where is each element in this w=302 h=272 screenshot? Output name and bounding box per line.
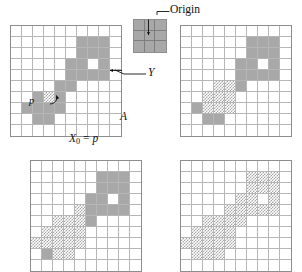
grid-cell-empty: [269, 238, 280, 249]
grid-cell-empty: [236, 172, 247, 183]
grid-row: [11, 92, 121, 103]
grid-row: [181, 114, 291, 125]
grid-cell-empty: [236, 103, 247, 114]
grid-cell-empty: [77, 103, 88, 114]
grid-cell-empty: [97, 238, 108, 249]
grid-cell-hatch: [247, 194, 258, 205]
grid-cell-empty: [64, 205, 75, 216]
grid-row: [181, 161, 291, 172]
grid-cell-hatch: [225, 103, 236, 114]
grid-cell-empty: [269, 161, 280, 172]
grid-cell-empty: [181, 92, 192, 103]
grid-cell-empty: [11, 103, 22, 114]
grid-cell-empty: [280, 26, 291, 37]
grid-cell-empty: [236, 114, 247, 125]
grid-cell-empty: [44, 26, 55, 37]
grid-cell-empty: [86, 183, 97, 194]
grid-cell-hatch: [203, 227, 214, 238]
grid-cell-hatch: [214, 103, 225, 114]
grid-cell-solid: [236, 81, 247, 92]
grid-row: [181, 26, 291, 37]
grid-cell-empty: [11, 125, 22, 136]
grid-cell-solid: [44, 114, 55, 125]
grid-cell-empty: [130, 194, 141, 205]
grid-cell-hatch: [269, 172, 280, 183]
grid-cell-empty: [55, 125, 66, 136]
grid-cell-empty: [181, 161, 192, 172]
grid-cell-empty: [280, 48, 291, 59]
grid-cell-empty: [11, 92, 22, 103]
grid-cell-empty: [66, 92, 77, 103]
grid-cell-solid: [77, 59, 88, 70]
grid-cell-empty: [247, 114, 258, 125]
grid-cell-empty: [108, 216, 119, 227]
grid-cell-empty: [280, 172, 291, 183]
grid-cell-solid: [269, 70, 280, 81]
grid-cell-empty: [75, 194, 86, 205]
grid-cell-solid: [269, 48, 280, 59]
grid-cell-empty: [247, 227, 258, 238]
grid-cell-hatch: [269, 194, 280, 205]
grid-cell-empty: [181, 103, 192, 114]
grid-cell-empty: [55, 114, 66, 125]
grid-cell-empty: [53, 172, 64, 183]
grid-row: [31, 260, 141, 271]
grid-cell-empty: [225, 260, 236, 271]
grid-cell-empty: [192, 114, 203, 125]
grid-cell-empty: [33, 59, 44, 70]
grid-cell-empty: [53, 183, 64, 194]
grid-cell-empty: [280, 216, 291, 227]
grid-cell-empty: [86, 238, 97, 249]
grid-cell-empty: [119, 227, 130, 238]
grid-cell-hatch: [31, 238, 42, 249]
grid-cell-solid: [214, 114, 225, 125]
grid-cell-empty: [108, 227, 119, 238]
grid-cell-empty: [42, 260, 53, 271]
grid-cell-empty: [192, 92, 203, 103]
grid-cell-hatch: [247, 172, 258, 183]
grid-cell-solid: [155, 41, 166, 52]
grid-cell-empty: [64, 172, 75, 183]
grid-cell-empty: [247, 260, 258, 271]
grid-cell-empty: [181, 81, 192, 92]
grid-cell-empty: [280, 183, 291, 194]
grid-cell-solid: [77, 37, 88, 48]
grid-cell-solid: [269, 59, 280, 70]
grid-cell-empty: [280, 194, 291, 205]
grid-cell-empty: [225, 37, 236, 48]
grid-cell-empty: [55, 48, 66, 59]
grid-cell-empty: [258, 125, 269, 136]
grid-cell-empty: [110, 48, 121, 59]
grid-cell-empty: [97, 260, 108, 271]
grid-cell-empty: [192, 216, 203, 227]
grid-cell-empty: [280, 59, 291, 70]
grid-cell-solid: [145, 41, 156, 52]
grid-cell-empty: [31, 249, 42, 260]
grid-cell-solid: [258, 70, 269, 81]
grid-cell-hatch: [75, 205, 86, 216]
grid-cell-empty: [192, 183, 203, 194]
grid-row: [134, 41, 166, 52]
grid-cell-empty: [22, 26, 33, 37]
grid-cell-empty: [203, 48, 214, 59]
grid-cell-empty: [203, 70, 214, 81]
grid-row: [181, 37, 291, 48]
grid-row: [181, 48, 291, 59]
grid-cell-empty: [181, 48, 192, 59]
grid-cell-empty: [64, 161, 75, 172]
grid-cell-empty: [192, 59, 203, 70]
grid-cell-solid: [155, 20, 166, 31]
grid-cell-solid: [247, 37, 258, 48]
grid-cell-solid: [134, 20, 145, 31]
grid-cell-hatch: [42, 238, 53, 249]
grid-cell-solid: [134, 41, 145, 52]
grid-cell-empty: [280, 161, 291, 172]
grid-cell-hatch: [192, 249, 203, 260]
grid-cell-empty: [42, 172, 53, 183]
grid-cell-empty: [53, 205, 64, 216]
grid-cell-empty: [33, 37, 44, 48]
grid-cell-empty: [110, 92, 121, 103]
grid-row: [181, 260, 291, 271]
grid-cell-empty: [258, 59, 269, 70]
grid-cell-empty: [214, 194, 225, 205]
